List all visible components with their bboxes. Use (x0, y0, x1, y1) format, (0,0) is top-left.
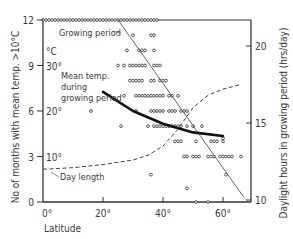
data-point (177, 94, 180, 97)
data-point (195, 140, 198, 143)
data-point (45, 19, 48, 22)
temp-tick-label: 30° (46, 61, 62, 72)
data-point (72, 19, 75, 22)
annotation-mean-temp-1: Mean temp. (61, 71, 109, 81)
data-point (150, 173, 153, 176)
temp-unit-label: °C (46, 46, 57, 57)
data-point (162, 110, 165, 113)
data-point (177, 140, 180, 143)
data-point (144, 49, 147, 52)
chart: 0310°620°930°12°C0°20°40°60°Latitude1015… (0, 0, 293, 239)
data-point (141, 19, 144, 22)
data-point (120, 125, 123, 128)
data-point (195, 201, 198, 204)
data-point (210, 140, 213, 143)
data-point (159, 64, 162, 67)
data-point (159, 110, 162, 113)
data-point (195, 155, 198, 158)
data-point (57, 19, 60, 22)
data-point (222, 155, 225, 158)
y-left-axis-title: No of months with mean temp. >10°C (10, 31, 21, 204)
data-point (138, 64, 141, 67)
x-axis-label: Latitude (44, 223, 81, 234)
x-tick-label: 40° (155, 208, 171, 219)
y-left-tick-label: 0 (28, 197, 34, 208)
data-point (159, 94, 162, 97)
y-left-tick-label: 3 (28, 152, 34, 163)
data-point (159, 125, 162, 128)
data-point (153, 34, 156, 37)
data-point (87, 19, 90, 22)
growing-period-trend-line (118, 20, 244, 197)
y-left-tick-label: 6 (28, 106, 34, 117)
data-point (114, 19, 117, 22)
annotation-mean-temp-2: during (61, 82, 87, 92)
data-point (141, 49, 144, 52)
y-right-tick-label: 15 (255, 118, 266, 129)
data-point (96, 19, 99, 22)
data-point (138, 94, 141, 97)
y-right-tick-label: 20 (255, 41, 267, 52)
data-point (132, 64, 135, 67)
data-point (147, 125, 150, 128)
data-point (192, 155, 195, 158)
data-point (132, 79, 135, 82)
annotation-mean-temp-3: growing period (61, 93, 122, 103)
data-point (105, 19, 108, 22)
y-left-tick-label: 9 (28, 61, 34, 72)
data-point (207, 201, 210, 204)
data-point (210, 155, 213, 158)
data-point (123, 64, 126, 67)
data-point (84, 19, 87, 22)
data-point (144, 19, 147, 22)
data-point (102, 19, 105, 22)
x-tick-label: 60° (215, 208, 231, 219)
y-left-tick-label: 12 (23, 15, 34, 26)
data-point (201, 125, 204, 128)
data-point (78, 19, 81, 22)
data-point (129, 19, 132, 22)
data-point (156, 19, 159, 22)
data-point (66, 19, 69, 22)
data-point (123, 19, 126, 22)
data-point (69, 19, 72, 22)
data-point (126, 19, 129, 22)
data-point (132, 19, 135, 22)
data-point (186, 110, 189, 113)
data-point (81, 19, 84, 22)
data-point (156, 125, 159, 128)
x-tick-label: 0° (42, 208, 52, 219)
annotation-day-length: Day length (60, 172, 104, 182)
data-point (171, 110, 174, 113)
data-point (156, 110, 159, 113)
data-point (147, 19, 150, 22)
data-point (141, 79, 144, 82)
y-right-axis-title: Daylight hours in growing period (hrs/da… (278, 28, 289, 219)
data-point (150, 19, 153, 22)
annotation-leader-line (51, 172, 59, 177)
data-point (141, 64, 144, 67)
data-point (150, 34, 153, 37)
data-point (99, 19, 102, 22)
data-point (222, 140, 225, 143)
data-point (132, 34, 135, 37)
data-point (48, 19, 51, 22)
x-tick-label: 20° (95, 208, 111, 219)
data-point (153, 19, 156, 22)
data-point (186, 155, 189, 158)
data-point (153, 64, 156, 67)
data-point (120, 19, 123, 22)
data-point (186, 125, 189, 128)
data-point (153, 125, 156, 128)
data-point (153, 94, 156, 97)
data-point (174, 140, 177, 143)
data-point (93, 19, 96, 22)
data-point (153, 110, 156, 113)
data-point (180, 140, 183, 143)
data-point (141, 94, 144, 97)
axes-layer: 0310°620°930°12°C0°20°40°60°Latitude1015… (10, 15, 289, 234)
data-point (156, 94, 159, 97)
data-point (75, 19, 78, 22)
data-point (183, 155, 186, 158)
data-point (129, 79, 132, 82)
